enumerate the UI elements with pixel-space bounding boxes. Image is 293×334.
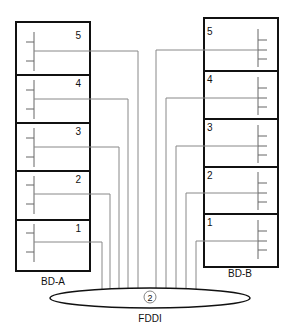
wire-a3 [34, 147, 119, 290]
fddi-ring: 2 FDDI [50, 288, 250, 324]
bd-b-section-3: 3 [207, 122, 267, 163]
bd-a-label: BD-A [41, 276, 65, 287]
bd-b-label: BD-B [228, 268, 252, 279]
section-number: 3 [75, 126, 81, 137]
bd-b-cabinet [204, 18, 278, 267]
section-number: 5 [75, 30, 81, 41]
bd-b-section-4: 4 [207, 74, 267, 115]
section-number: 1 [207, 217, 213, 228]
section-number: 3 [207, 122, 213, 133]
section-number: 5 [207, 26, 213, 37]
section-number: 2 [207, 170, 213, 181]
network-diagram: 5 4 3 2 1 [0, 0, 293, 334]
section-number: 4 [207, 74, 213, 85]
fddi-label: FDDI [138, 313, 161, 324]
ring-marker-number: 2 [147, 293, 152, 303]
bd-b-section-1: 1 [207, 217, 267, 259]
bd-b-section-5: 5 [207, 26, 267, 67]
distributor-bd-b: 5 4 3 2 [204, 18, 278, 279]
bd-b-section-2: 2 [207, 170, 267, 210]
section-number: 4 [75, 78, 81, 89]
distributor-bd-a: 5 4 3 2 1 [16, 22, 90, 287]
section-number: 1 [75, 223, 81, 234]
section-number: 2 [75, 174, 81, 185]
wire-b1 [196, 241, 258, 290]
